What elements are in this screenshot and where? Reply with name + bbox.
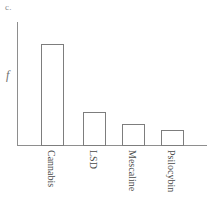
bar-cannabis xyxy=(41,44,64,146)
x-tick-label-psilocybin: Psilocybin xyxy=(166,150,177,192)
x-tick-label-lsd: LSD xyxy=(88,150,99,169)
bar-lsd xyxy=(83,112,106,146)
x-tick-label-mescaline: Mescaline xyxy=(127,150,138,191)
x-tick-label-cannabis: Cannabis xyxy=(46,150,57,187)
figure-container: c. f Cannabis LSD Mescaline Psilocybin xyxy=(0,0,215,202)
y-axis-line xyxy=(17,22,18,146)
bar-psilocybin xyxy=(161,130,184,146)
plot-area: Cannabis LSD Mescaline Psilocybin xyxy=(0,0,215,202)
bar-mescaline xyxy=(122,124,145,146)
